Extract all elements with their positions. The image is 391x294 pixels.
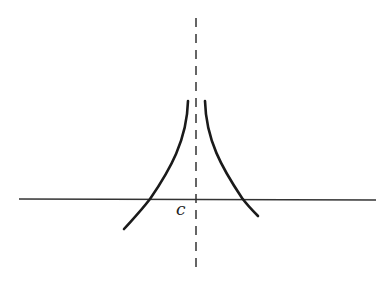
- asymptote-label-c: c: [176, 199, 186, 219]
- right-branch-curve: [205, 101, 258, 216]
- asymptote-diagram: c: [0, 0, 391, 294]
- x-axis: [19, 199, 376, 200]
